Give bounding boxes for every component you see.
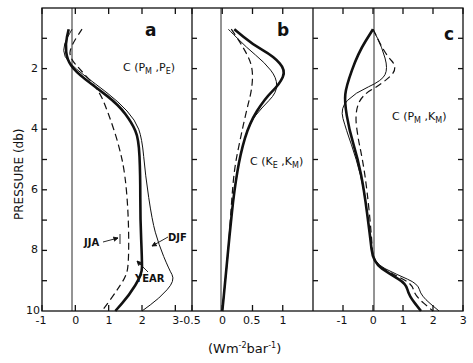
x-tick-label: 2: [430, 314, 437, 327]
x-axis-unit-label: (Wm-2bar-1): [208, 341, 281, 356]
x-tick-label: 0: [72, 314, 79, 327]
x-tick-label: 0: [370, 314, 377, 327]
y-tick-label: 4: [31, 122, 38, 135]
y-tick-label: 8: [31, 243, 38, 256]
x-tick-label: 1: [105, 314, 112, 327]
x-tick-label: 1: [280, 314, 287, 327]
chart-canvas: [0, 0, 473, 363]
x-tick-label: 2: [139, 314, 146, 327]
annotation-arrows: [103, 234, 168, 272]
panel-b-title: C (KE ,KM): [250, 155, 303, 170]
x-tick-label: -0.5: [179, 314, 200, 327]
panel-c-title: C (PM ,KM): [392, 110, 446, 125]
y-axis-label: PRESSURE (db): [12, 130, 26, 220]
x-tick-label: 1: [400, 314, 407, 327]
x-tick-label: -1: [337, 314, 348, 327]
panel-a-letter: a: [145, 20, 156, 40]
x-tick-label: 3: [172, 314, 179, 327]
arrow-jja-head: [113, 237, 118, 241]
x-tick-label: 0: [219, 314, 226, 327]
annotation-jja: JJA: [84, 237, 99, 248]
panel-b-letter: b: [277, 20, 289, 40]
panel-a-title: C (PM ,PE): [123, 61, 175, 76]
annotation-year: YEAR: [135, 273, 165, 284]
curve-c-djf: [342, 29, 439, 311]
x-tick-label: -1: [36, 314, 47, 327]
annotation-djf: DJF: [168, 232, 187, 243]
curve-c-jja: [356, 29, 433, 311]
x-tick-label: 3: [460, 314, 467, 327]
x-tick-label: 0.5: [243, 314, 261, 327]
y-tick-label: 2: [31, 62, 38, 75]
panel-c-letter: c: [444, 24, 454, 44]
y-tick-label: 6: [31, 183, 38, 196]
